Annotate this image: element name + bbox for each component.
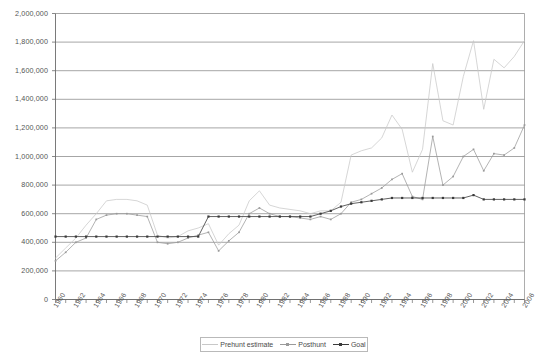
series-marker [503, 198, 505, 200]
series-marker [472, 194, 474, 196]
series-marker [524, 124, 526, 126]
series-marker [238, 231, 240, 233]
series-marker [157, 241, 159, 243]
chart-legend: Prehunt estimatePosthuntGoal [200, 337, 368, 352]
series-marker [442, 197, 444, 199]
series-marker [54, 235, 56, 237]
series-marker [462, 156, 464, 158]
series-marker [106, 214, 108, 216]
y-axis-label: 600,000 [0, 209, 48, 218]
series-marker [370, 200, 372, 202]
series-marker [391, 197, 393, 199]
series-marker [187, 235, 189, 237]
series-marker [269, 215, 271, 217]
series-marker [75, 241, 77, 243]
series-marker [156, 235, 158, 237]
series-marker [299, 215, 301, 217]
legend-swatch-icon [202, 341, 218, 348]
series-marker [248, 213, 250, 215]
series-marker [310, 219, 312, 221]
series-marker [126, 235, 128, 237]
series-marker [442, 184, 444, 186]
series-marker [55, 260, 57, 262]
series-prehunt-estimate [56, 41, 525, 258]
series-marker [146, 216, 148, 218]
series-marker [513, 147, 515, 149]
series-marker [309, 215, 311, 217]
y-axis-label: 1,000,000 [0, 152, 48, 161]
line-chart-plot [0, 0, 550, 364]
gridlines [56, 14, 525, 300]
y-axis-label: 2,000,000 [0, 9, 48, 18]
series-marker [85, 235, 87, 237]
series-marker [483, 170, 485, 172]
series-marker [116, 213, 118, 215]
series-marker [361, 199, 363, 201]
legend-item: Prehunt estimate [202, 341, 273, 348]
series-marker [167, 235, 169, 237]
series-goal [54, 194, 525, 238]
series-marker [432, 197, 434, 199]
series-marker [238, 215, 240, 217]
series-marker [330, 210, 332, 212]
series-marker [401, 173, 403, 175]
legend-item: Posthunt [280, 341, 326, 348]
series-marker [320, 216, 322, 218]
series-posthunt [55, 124, 526, 262]
series-marker [319, 213, 321, 215]
series-marker [289, 215, 291, 217]
series-marker [432, 136, 434, 138]
legend-label: Goal [351, 341, 366, 348]
series-marker [473, 149, 475, 151]
series-marker [207, 215, 209, 217]
series-marker [105, 235, 107, 237]
series-marker [65, 251, 67, 253]
series-marker [371, 193, 373, 195]
x-axis-ticks [56, 300, 525, 304]
legend-swatch-icon [333, 341, 349, 348]
series-marker [197, 235, 199, 237]
series-line [56, 125, 525, 261]
y-axis-label: 200,000 [0, 266, 48, 275]
series-marker [136, 235, 138, 237]
series-marker [228, 240, 230, 242]
series-marker [381, 198, 383, 200]
series-marker [340, 213, 342, 215]
legend-item: Goal [333, 341, 366, 348]
series-line [56, 41, 525, 258]
series-marker [259, 207, 261, 209]
series-marker [279, 215, 281, 217]
series-marker [65, 235, 67, 237]
y-axis-label: 1,800,000 [0, 37, 48, 46]
y-axis-label: 800,000 [0, 180, 48, 189]
series-marker [208, 231, 210, 233]
series-marker [330, 219, 332, 221]
series-marker [177, 235, 179, 237]
series-marker [452, 176, 454, 178]
series-marker [228, 215, 230, 217]
series-marker [269, 213, 271, 215]
series-marker [218, 215, 220, 217]
y-axis-label: 1,600,000 [0, 66, 48, 75]
series-marker [411, 197, 413, 199]
series-marker [493, 153, 495, 155]
y-axis-label: 400,000 [0, 237, 48, 246]
series-marker [218, 250, 220, 252]
series-marker [401, 197, 403, 199]
series-marker [462, 197, 464, 199]
series-marker [126, 213, 128, 215]
series-marker [523, 198, 525, 200]
series-marker [258, 215, 260, 217]
series-marker [391, 179, 393, 181]
series-marker [513, 198, 515, 200]
legend-label: Prehunt estimate [220, 341, 273, 348]
y-axis-label: 1,400,000 [0, 94, 48, 103]
series-marker [340, 205, 342, 207]
legend-swatch-icon [280, 341, 296, 348]
series-marker [177, 241, 179, 243]
series-marker [146, 235, 148, 237]
series-marker [493, 198, 495, 200]
y-axis-label: 1,200,000 [0, 123, 48, 132]
legend-label: Posthunt [298, 341, 326, 348]
series-marker [167, 243, 169, 245]
